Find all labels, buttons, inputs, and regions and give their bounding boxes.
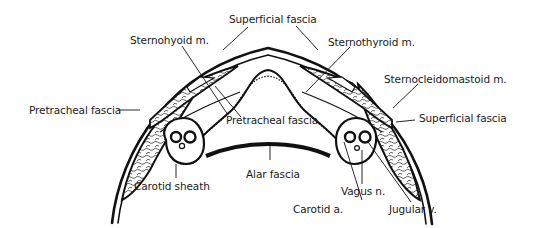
label-superficial-fascia-right: Superficial fascia [419,112,507,124]
label-superficial-fascia-top: Superficial fascia [229,13,317,25]
right-jugular-vein [360,132,371,143]
left-jugular-vein [185,132,196,143]
label-pretracheal-fascia-left: Pretracheal fascia [29,104,121,116]
label-jugular-vein: Jugular v. [389,203,437,215]
left-carotid-artery [171,132,181,142]
label-sternocleidomastoid: Sternocleidomastoid m. [384,73,507,85]
left-vagus-nerve [179,143,184,148]
label-pretracheal-fascia-center: Pretracheal fascia [226,114,318,126]
label-sternothyroid: Sternothyroid m. [328,36,415,48]
label-carotid-artery: Carotid a. [293,203,343,215]
right-carotid-sheath [336,118,376,164]
label-alar-fascia: Alar fascia [246,168,300,180]
label-carotid-sheath: Carotid sheath [134,180,210,192]
right-vagus-nerve [355,146,360,151]
label-vagus-nerve: Vagus n. [341,185,385,197]
label-sternohyoid: Sternohyoid m. [130,34,209,46]
alar-fascia-band [206,144,330,156]
right-carotid-artery [345,132,355,142]
left-carotid-sheath [164,118,204,164]
